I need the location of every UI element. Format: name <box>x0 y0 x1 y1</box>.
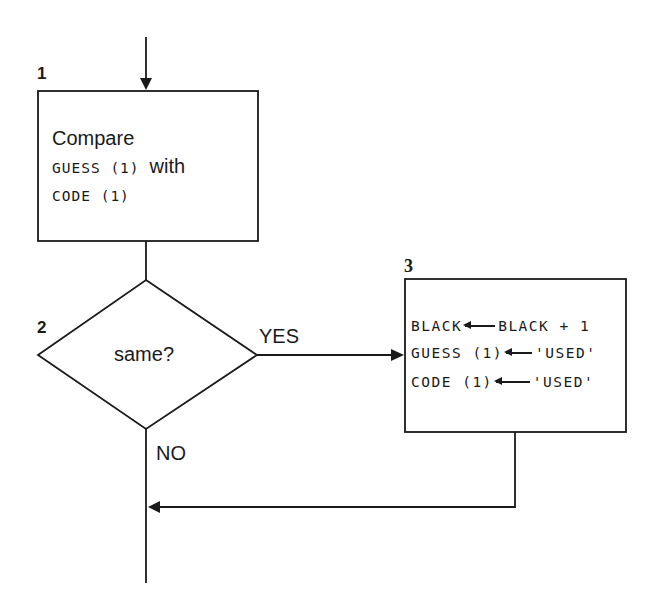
flowchart-lines <box>0 0 657 609</box>
with-label: with <box>150 155 186 178</box>
guess-ref: GUESS (1) <box>52 160 140 176</box>
yes-arrowhead-icon <box>391 349 404 361</box>
assign-arrow-icon <box>496 381 530 383</box>
entry-arrowhead-icon <box>140 78 152 90</box>
return-line <box>158 432 515 507</box>
statement-3-target: CODE (1) <box>411 374 493 390</box>
assign-arrow-icon <box>465 325 495 327</box>
statement-2: GUESS (1) 'USED' <box>411 345 596 361</box>
compare-label: Compare <box>52 127 134 150</box>
statement-1: BLACK BLACK + 1 <box>411 318 590 334</box>
decision-text: same? <box>114 343 174 366</box>
statement-2-value: 'USED' <box>535 345 596 361</box>
compare-line-2: GUESS (1) with <box>52 155 185 178</box>
yes-label: YES <box>259 325 299 348</box>
no-label: NO <box>156 442 186 465</box>
statement-3-value: 'USED' <box>533 374 594 390</box>
assign-arrow-icon <box>506 352 532 354</box>
node-number-2: 2 <box>37 318 46 338</box>
statement-2-target: GUESS (1) <box>411 345 503 361</box>
node-number-3: 3 <box>404 256 413 277</box>
code-ref: CODE (1) <box>52 188 130 204</box>
statement-1-target: BLACK <box>411 318 462 334</box>
statement-3: CODE (1) 'USED' <box>411 374 594 390</box>
node-number-1: 1 <box>37 64 46 84</box>
statement-1-value: BLACK + 1 <box>498 318 590 334</box>
merge-arrowhead-icon <box>148 501 160 513</box>
